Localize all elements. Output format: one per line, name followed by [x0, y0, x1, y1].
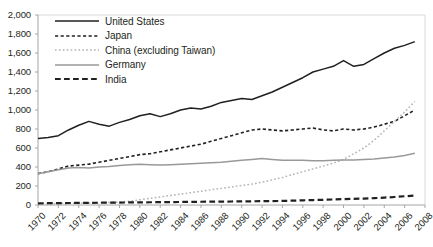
y-axis-tick-label: 1,600 — [0, 47, 31, 58]
y-axis-tick-label: 200 — [0, 180, 31, 191]
legend-item: India — [55, 72, 215, 87]
legend-item: United States — [55, 14, 215, 29]
y-axis-tick-label: 1,200 — [0, 85, 31, 96]
y-axis-tick-label: 1,000 — [0, 104, 31, 115]
legend-item-label: Japan — [105, 30, 132, 41]
y-axis-tick-label: 800 — [0, 123, 31, 134]
series-line-india — [38, 196, 415, 204]
legend-item-label: United States — [105, 16, 164, 27]
series-line-japan — [38, 110, 415, 174]
y-axis-tick-label: 1,400 — [0, 66, 31, 77]
y-axis-tick-label: 400 — [0, 161, 31, 172]
legend-line-swatch-icon — [55, 59, 99, 71]
legend-item: Germany — [55, 58, 215, 73]
legend-item-label: India — [105, 74, 126, 85]
legend-line-swatch-icon — [55, 73, 99, 85]
legend-item-label: China (excluding Taiwan) — [105, 45, 215, 56]
y-axis-tick-label: 1,800 — [0, 28, 31, 39]
legend-line-swatch-icon — [55, 30, 99, 42]
legend-item: China (excluding Taiwan) — [55, 43, 215, 58]
chart-legend: United StatesJapanChina (excluding Taiwa… — [55, 14, 215, 87]
legend-item: Japan — [55, 29, 215, 44]
legend-line-swatch-icon — [55, 44, 99, 56]
line-chart: 2,0001,8001,6001,4001,2001,0008006004002… — [0, 0, 433, 247]
series-line-china-excluding-taiwan — [38, 101, 415, 204]
y-axis-tick-label: 2,000 — [0, 9, 31, 20]
legend-line-swatch-icon — [55, 15, 99, 27]
y-axis-tick-label: 0 — [0, 199, 31, 210]
legend-item-label: Germany — [105, 59, 146, 70]
y-axis-tick-label: 600 — [0, 142, 31, 153]
